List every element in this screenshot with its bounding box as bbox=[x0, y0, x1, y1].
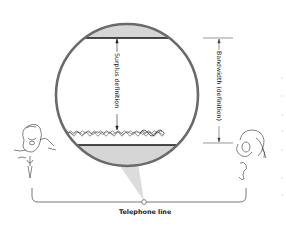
right-edge-ticks bbox=[281, 78, 283, 195]
speaker-left-illustration bbox=[14, 124, 56, 178]
magnifier-contents bbox=[50, 20, 210, 170]
telephone-line-label: Telephone line bbox=[119, 208, 171, 216]
upper-band bbox=[50, 20, 210, 38]
diagram-canvas bbox=[0, 0, 286, 228]
signal-wave bbox=[60, 130, 165, 136]
telephone-line-node bbox=[142, 200, 147, 205]
magnifier-cone bbox=[118, 163, 144, 201]
bandwidth-definition-label: Bandwidth (definition) bbox=[216, 51, 223, 121]
surplus-definition-label: Surplus definition bbox=[114, 53, 121, 108]
listener-right-illustration bbox=[237, 130, 266, 180]
telephone-bandwidth-diagram: Surplus definition Bandwidth (definition… bbox=[0, 0, 286, 228]
